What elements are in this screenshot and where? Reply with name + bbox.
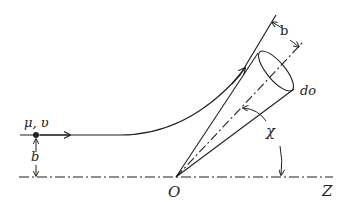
- impact-parameter-label-right: b: [280, 24, 288, 37]
- impact-arrow-right-2: [290, 40, 299, 47]
- chi-arrow-lower: [280, 146, 282, 175]
- diagram-canvas: [0, 0, 351, 202]
- cone-edge-lower: [176, 89, 294, 177]
- particle-trajectory: [20, 15, 276, 135]
- angle-chi-label: χ: [266, 124, 275, 139]
- cone-edge-upper: [176, 53, 258, 177]
- solid-angle-label: do: [300, 84, 316, 97]
- impact-parameter-label-left: b: [31, 150, 39, 163]
- z-axis-label: Z: [322, 184, 332, 199]
- particle-label: μ, υ: [24, 116, 49, 129]
- scattering-diagram: μ, υ b b do χ O Z: [0, 0, 351, 202]
- cone-axis-line: [176, 42, 303, 177]
- particle-dot: [33, 132, 39, 138]
- origin-label: O: [168, 185, 180, 200]
